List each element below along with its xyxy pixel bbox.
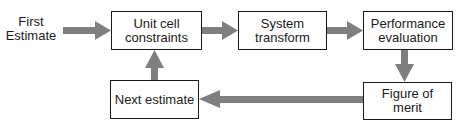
arrow-system-transform-to-performance	[327, 21, 363, 40]
node-figure-of-merit-line2: merit	[382, 101, 433, 115]
node-unit-cell-line1: Unit cell	[125, 17, 188, 31]
node-system-transform: System transform	[238, 11, 327, 50]
arrow-start-to-unit-cell	[63, 21, 111, 40]
node-next-estimate: Next estimate	[110, 80, 199, 119]
start-label: First Estimate	[0, 15, 62, 43]
node-performance-line1: Performance	[371, 17, 445, 31]
node-performance-line2: evaluation	[371, 31, 445, 45]
arrow-next-estimate-to-unit-cell	[145, 50, 164, 80]
node-system-transform-line1: System	[255, 17, 310, 31]
node-system-transform-line2: transform	[255, 31, 310, 45]
arrow-performance-to-figure-of-merit	[395, 50, 414, 82]
node-next-estimate-label: Next estimate	[115, 93, 194, 107]
arrow-figure-of-merit-to-next-estimate	[199, 90, 363, 108]
node-figure-of-merit-line1: Figure of	[382, 87, 433, 101]
node-unit-cell-line2: constraints	[125, 31, 188, 45]
start-label-line2: Estimate	[0, 29, 62, 43]
node-performance-evaluation: Performance evaluation	[363, 11, 453, 50]
node-unit-cell-constraints: Unit cell constraints	[111, 11, 202, 50]
start-label-line1: First	[0, 15, 62, 29]
arrow-unit-cell-to-system-transform	[202, 21, 238, 40]
node-figure-of-merit: Figure of merit	[363, 82, 452, 120]
